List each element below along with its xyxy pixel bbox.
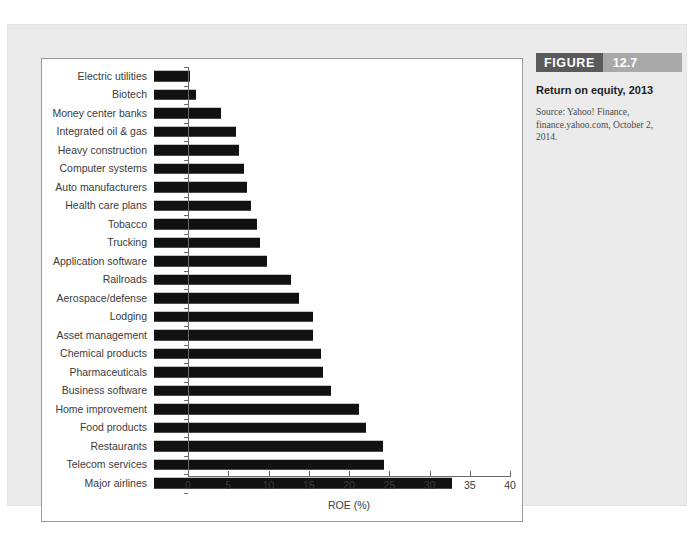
chart-row: Business software xyxy=(42,382,524,401)
bar xyxy=(154,201,251,212)
chart-row: Telecom services xyxy=(42,456,524,475)
bar-track xyxy=(154,419,524,438)
figure-panel: Electric utilitiesBiotechMoney center ba… xyxy=(8,25,686,505)
y-tick xyxy=(184,400,188,401)
figure-title: Return on equity, 2013 xyxy=(536,83,668,97)
bar xyxy=(154,275,291,286)
category-label: Major airlines xyxy=(42,478,154,489)
bar xyxy=(154,164,244,175)
category-label: Health care plans xyxy=(42,200,154,211)
chart-row: Tobacco xyxy=(42,215,524,234)
category-label: Lodging xyxy=(42,311,154,322)
x-tick-label: 30 xyxy=(424,479,436,491)
category-label: Money center banks xyxy=(42,108,154,119)
x-tick-label: 20 xyxy=(343,479,355,491)
y-tick xyxy=(184,308,188,309)
chart-row: Chemical products xyxy=(42,345,524,364)
x-tick-label: 10 xyxy=(263,479,275,491)
y-tick xyxy=(184,456,188,457)
page-header-bleed xyxy=(270,0,690,14)
category-label: Food products xyxy=(42,422,154,433)
bar xyxy=(154,127,236,138)
bar xyxy=(154,349,321,360)
y-axis-line xyxy=(188,67,189,476)
category-label: Restaurants xyxy=(42,441,154,452)
chart-row: Asset management xyxy=(42,326,524,345)
y-tick xyxy=(184,271,188,272)
category-label: Aerospace/defense xyxy=(42,293,154,304)
category-label: Tobacco xyxy=(42,219,154,230)
chart-row: Electric utilities xyxy=(42,67,524,86)
category-label: Pharmaceuticals xyxy=(42,367,154,378)
bar xyxy=(154,145,239,156)
bar-track xyxy=(154,86,524,105)
y-tick xyxy=(184,160,188,161)
bar-track xyxy=(154,67,524,86)
x-tick xyxy=(269,471,270,477)
y-tick xyxy=(184,493,188,494)
figure-badge-number: 12.7 xyxy=(603,53,682,72)
y-tick xyxy=(184,382,188,383)
y-tick xyxy=(184,437,188,438)
chart-rows: Electric utilitiesBiotechMoney center ba… xyxy=(42,67,524,493)
chart-row: Heavy construction xyxy=(42,141,524,160)
category-label: Biotech xyxy=(42,89,154,100)
x-tick xyxy=(430,471,431,477)
y-tick xyxy=(184,141,188,142)
bar-track xyxy=(154,382,524,401)
x-tick-label: 5 xyxy=(225,479,231,491)
bar-track xyxy=(154,178,524,197)
category-label: Business software xyxy=(42,385,154,396)
category-label: Application software xyxy=(42,256,154,267)
y-tick xyxy=(184,252,188,253)
chart-row: Auto manufacturers xyxy=(42,178,524,197)
bar-track xyxy=(154,363,524,382)
chart-row: Lodging xyxy=(42,308,524,327)
bar xyxy=(154,90,196,101)
y-tick xyxy=(184,197,188,198)
bar-track xyxy=(154,234,524,253)
chart-row: Biotech xyxy=(42,86,524,105)
bar-chart: Electric utilitiesBiotechMoney center ba… xyxy=(42,59,524,523)
y-tick xyxy=(184,178,188,179)
y-tick xyxy=(184,345,188,346)
category-label: Computer systems xyxy=(42,163,154,174)
bar xyxy=(154,312,313,323)
bar xyxy=(154,71,190,82)
x-axis-title: ROE (%) xyxy=(188,499,510,511)
x-tick-label: 0 xyxy=(185,479,191,491)
bar-track xyxy=(154,326,524,345)
x-tick xyxy=(510,471,511,477)
figure-page: Electric utilitiesBiotechMoney center ba… xyxy=(0,0,694,535)
x-tick-label: 35 xyxy=(464,479,476,491)
bar xyxy=(154,256,267,267)
bar xyxy=(154,219,257,230)
bar xyxy=(154,238,260,249)
bar xyxy=(154,404,359,415)
bar xyxy=(154,423,366,434)
bar-track xyxy=(154,160,524,179)
chart-row: Money center banks xyxy=(42,104,524,123)
chart-row: Railroads xyxy=(42,271,524,290)
chart-row: Home improvement xyxy=(42,400,524,419)
bar-track xyxy=(154,271,524,290)
bar-track xyxy=(154,252,524,271)
bar-track xyxy=(154,104,524,123)
chart-row: Trucking xyxy=(42,234,524,253)
category-label: Heavy construction xyxy=(42,145,154,156)
y-tick xyxy=(184,67,188,68)
bar xyxy=(154,182,247,193)
chart-row: Food products xyxy=(42,419,524,438)
category-label: Home improvement xyxy=(42,404,154,415)
chart-row: Application software xyxy=(42,252,524,271)
x-tick-label: 25 xyxy=(383,479,395,491)
chart-row: Restaurants xyxy=(42,437,524,456)
chart-row: Health care plans xyxy=(42,197,524,216)
figure-badge-word: FIGURE xyxy=(536,53,603,72)
category-label: Trucking xyxy=(42,237,154,248)
y-tick xyxy=(184,86,188,87)
chart-card: Electric utilitiesBiotechMoney center ba… xyxy=(41,58,523,522)
category-label: Electric utilities xyxy=(42,71,154,82)
y-tick xyxy=(184,104,188,105)
bar-track xyxy=(154,123,524,142)
